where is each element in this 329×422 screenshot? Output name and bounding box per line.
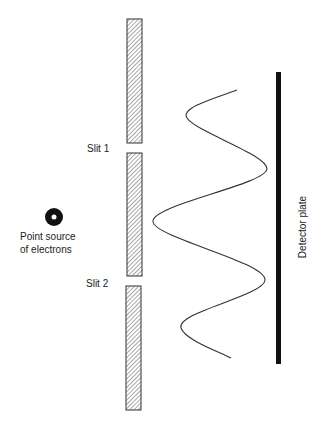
slit-1-label: Slit 1 xyxy=(87,142,109,155)
bottom-barrier xyxy=(126,286,141,410)
point-source-label: Point source of electrons xyxy=(20,230,76,256)
detector-plate-label: Detector plate xyxy=(296,196,309,258)
electron-source-hole xyxy=(52,215,57,220)
detector-plate xyxy=(276,72,281,364)
interference-pattern-curve xyxy=(153,90,267,358)
point-source-label-line1: Point source xyxy=(20,230,76,243)
point-source-label-line2: of electrons xyxy=(20,243,76,256)
double-slit-diagram xyxy=(0,0,329,422)
slit-2-label: Slit 2 xyxy=(86,277,108,290)
middle-barrier xyxy=(127,153,142,276)
top-barrier xyxy=(127,19,142,143)
